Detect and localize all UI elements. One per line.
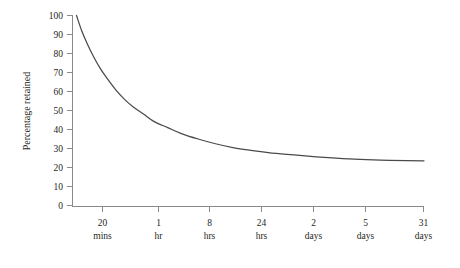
y-tick-label-30: 30 — [54, 144, 64, 154]
x-tick-label-2-value: 2 — [311, 218, 316, 228]
retention-curve — [77, 16, 425, 161]
x-tick-label-8-unit: hrs — [204, 231, 216, 241]
y-tick-label-0: 0 — [58, 201, 63, 211]
y-tick-label-90: 90 — [54, 30, 64, 40]
x-tick-label-2-unit: days — [305, 231, 323, 241]
y-tick-label-100: 100 — [49, 11, 64, 21]
forgetting-curve-figure: 100 90 80 70 60 50 40 30 20 10 0 20 1 8 … — [0, 0, 460, 268]
x-tick-label-20-value: 20 — [98, 218, 108, 228]
chart-canvas: 100 90 80 70 60 50 40 30 20 10 0 20 1 8 … — [0, 0, 460, 268]
x-tick-label-20-unit: mins — [93, 231, 112, 241]
x-tick-label-31-value: 31 — [419, 218, 429, 228]
y-tick-label-50: 50 — [54, 106, 64, 116]
x-tick-label-31-unit: days — [415, 231, 433, 241]
y-tick-label-70: 70 — [54, 68, 64, 78]
y-tick-label-80: 80 — [54, 49, 64, 59]
x-tick-label-8-value: 8 — [207, 218, 212, 228]
y-tick-label-10: 10 — [54, 182, 64, 192]
x-tick-label-24-unit: hrs — [256, 231, 268, 241]
y-tick-label-40: 40 — [54, 125, 64, 135]
x-tick-label-1-unit: hr — [155, 231, 164, 241]
x-tick-label-1-value: 1 — [156, 218, 161, 228]
y-tick-label-60: 60 — [54, 87, 64, 97]
x-tick-label-24-value: 24 — [257, 218, 267, 228]
y-axis-title: Percentage retained — [21, 72, 32, 151]
x-tick-label-5-unit: days — [357, 231, 375, 241]
x-tick-label-5-value: 5 — [363, 218, 368, 228]
y-tick-label-20: 20 — [54, 163, 64, 173]
